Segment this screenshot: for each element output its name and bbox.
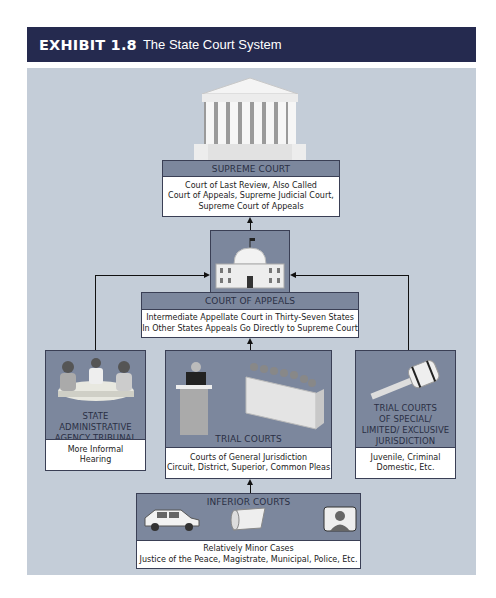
supreme-court-description: Court of Last Review, Also Called Court … [163, 176, 339, 216]
connector-special-horizontal [296, 275, 408, 276]
special-jurisdiction-description: Juvenile, Criminal Domestic, Etc. [356, 447, 455, 478]
court-of-appeals-box: COURT OF APPEALS Intermediate Appellate … [141, 292, 359, 338]
exhibit-header: EXHIBIT 1.8 The State Court System [27, 27, 476, 62]
connector-admin-horizontal [95, 275, 205, 276]
court-of-appeals-description: Intermediate Appellate Court in Thirty-S… [142, 309, 358, 337]
trial-courts-title: TRIAL COURTS [166, 434, 331, 445]
trial-courts-box: TRIAL COURTS Courts of General Jurisdict… [165, 350, 332, 479]
capitol-building-icon [214, 236, 286, 290]
trial-courts-description: Courts of General Jurisdiction Circuit, … [166, 447, 331, 478]
courtroom-jury-icon [172, 357, 326, 437]
arrow-right-icon [204, 272, 210, 278]
state-admin-description: More Informal Hearing [46, 439, 145, 470]
gavel-icon [366, 357, 446, 401]
connector-special-to-appeals [408, 275, 409, 351]
inferior-courts-box: INFERIOR COURTS Relatively Minor Cases J… [136, 493, 361, 569]
arrow-left-icon [290, 272, 296, 278]
state-admin-tribunal-box: STATE ADMINISTRATIVE AGENCY TRIBUNAL Mor… [45, 350, 146, 471]
arrow-up-icon [247, 338, 253, 344]
special-jurisdiction-box: TRIAL COURTS OF SPECIAL/ LIMITED/ EXCLUS… [355, 350, 456, 479]
exhibit-title: The State Court System [143, 37, 282, 52]
arrow-up-icon [247, 217, 253, 223]
court-of-appeals-title: COURT OF APPEALS [142, 293, 358, 307]
supreme-court-title: SUPREME COURT [163, 161, 339, 175]
exhibit-number: EXHIBIT 1.8 [39, 37, 137, 53]
supreme-court-building-icon [194, 76, 306, 160]
scroll-icon [229, 506, 269, 534]
person-portrait-icon [323, 506, 357, 532]
arrow-up-icon [247, 479, 253, 485]
meeting-table-icon [52, 355, 140, 407]
inferior-courts-description: Relatively Minor Cases Justice of the Pe… [137, 540, 360, 568]
special-jurisdiction-title: TRIAL COURTS OF SPECIAL/ LIMITED/ EXCLUS… [356, 403, 455, 447]
supreme-court-box: SUPREME COURT Court of Last Review, Also… [162, 160, 340, 217]
car-icon [143, 506, 201, 532]
connector-admin-to-appeals [95, 275, 96, 351]
